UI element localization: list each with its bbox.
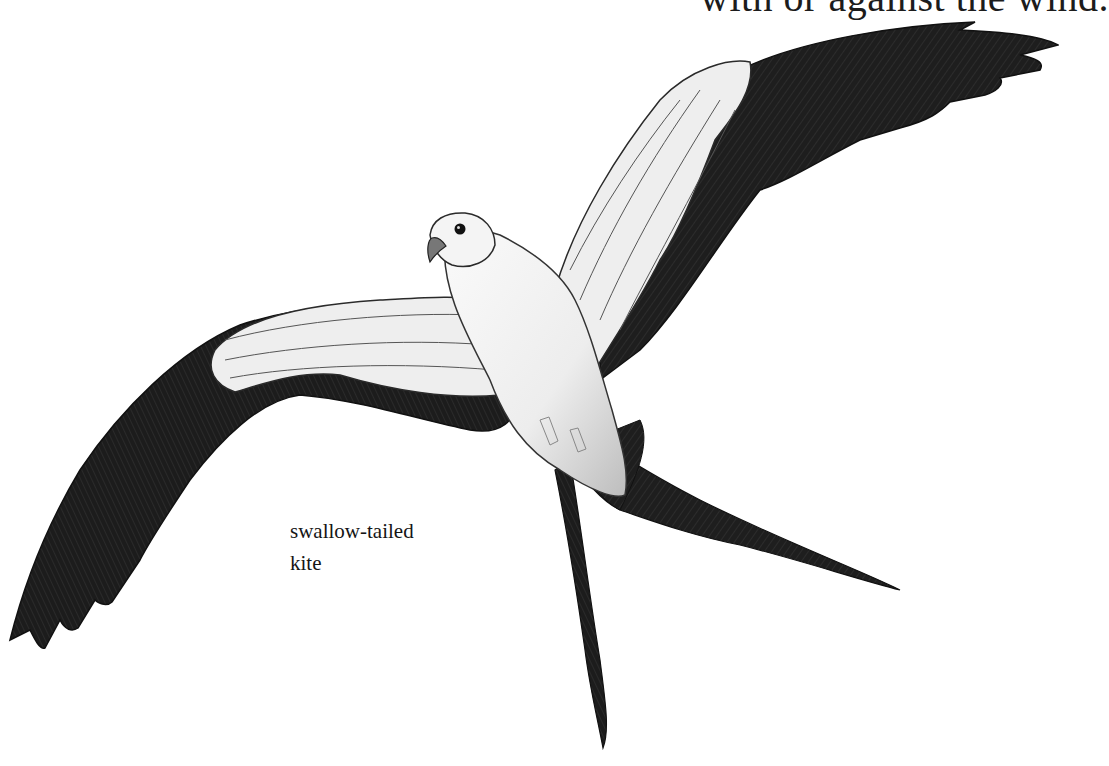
caption-line-2: kite: [290, 547, 414, 579]
right-wing: [555, 22, 1058, 380]
left-wing: [10, 297, 513, 648]
caption-line-1: swallow-tailed: [290, 515, 414, 547]
head: [428, 213, 495, 267]
species-caption: swallow-tailed kite: [290, 515, 414, 579]
